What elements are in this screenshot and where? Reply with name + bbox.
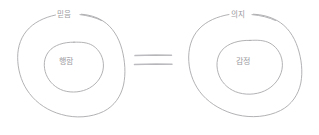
diagram-canvas: 믿음 행함 의지 감정 [0, 0, 319, 135]
right-inner-circle [217, 40, 282, 94]
left-inner-circle-label: 행함 [59, 58, 73, 66]
right-outer-circle-label: 의지 [231, 11, 245, 19]
left-inner-circle [44, 42, 103, 92]
left-outer-circle-label: 믿음 [57, 11, 71, 19]
equals-sign-top-stroke [135, 55, 172, 56]
equals-sign-bottom-stroke [135, 64, 173, 65]
hand-drawn-diagram-svg [0, 0, 319, 135]
right-inner-circle-label: 감정 [236, 58, 250, 66]
